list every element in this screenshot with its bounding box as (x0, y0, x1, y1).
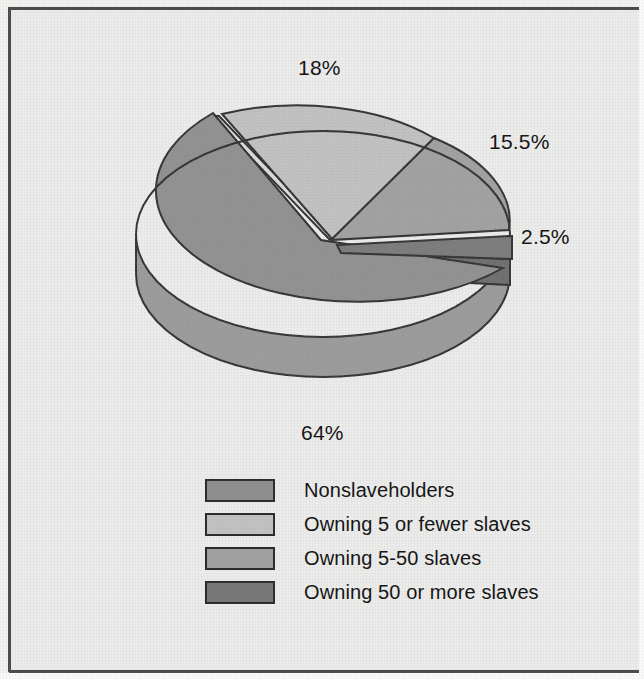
legend-item-owning-5-50: Owning 5-50 slaves (205, 541, 539, 575)
legend-label-owning-5-or-fewer: Owning 5 or fewer slaves (304, 513, 531, 536)
legend-label-nonslaveholders: Nonslaveholders (304, 479, 454, 502)
legend-item-owning-5-or-fewer: Owning 5 or fewer slaves (205, 507, 539, 541)
legend-swatch-owning-5-or-fewer (205, 513, 275, 536)
pie-label-64: 64% (301, 421, 344, 445)
figure-root: 18% 15.5% 2.5% 64% Nonslaveholders Ownin… (0, 0, 644, 679)
legend-label-owning-50-or-more: Owning 50 or more slaves (304, 581, 539, 604)
legend-swatch-nonslaveholders (205, 479, 275, 502)
legend-item-nonslaveholders: Nonslaveholders (205, 473, 539, 507)
scan-bleed-right (639, 0, 644, 679)
legend-label-owning-5-50: Owning 5-50 slaves (304, 547, 481, 570)
scan-bleed-bottom (0, 673, 644, 679)
chart-legend: Nonslaveholders Owning 5 or fewer slaves… (205, 473, 539, 609)
pie-label-2-5: 2.5% (521, 225, 570, 249)
legend-item-owning-50-or-more: Owning 50 or more slaves (205, 575, 539, 609)
pie-label-18: 18% (298, 56, 341, 80)
pie-label-15-5: 15.5% (489, 130, 550, 154)
page-border-top (9, 7, 644, 10)
legend-swatch-owning-5-50 (205, 547, 275, 570)
page-border-left (8, 7, 11, 672)
pie-chart-figure: 18% 15.5% 2.5% 64% Nonslaveholders Ownin… (0, 0, 644, 679)
legend-swatch-owning-50-or-more (205, 581, 275, 604)
